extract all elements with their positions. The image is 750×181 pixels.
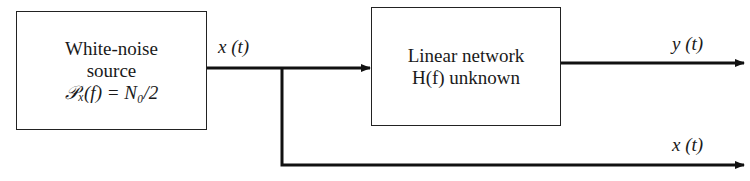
source-subtitle: source <box>87 60 137 82</box>
input-signal-label: x (t) <box>218 36 249 58</box>
white-noise-source-block: White-noise source 𝒫ₓ(f) = N₀/2 <box>16 11 207 130</box>
output-signal-label: y (t) <box>672 33 703 55</box>
reference-signal-label: x (t) <box>672 134 703 156</box>
network-title: Linear network <box>408 45 525 67</box>
network-transfer: H(f) unknown <box>412 67 520 89</box>
source-title: White-noise <box>65 38 158 60</box>
linear-network-block: Linear network H(f) unknown <box>371 7 561 126</box>
source-psd: 𝒫ₓ(f) = N₀/2 <box>65 82 159 104</box>
